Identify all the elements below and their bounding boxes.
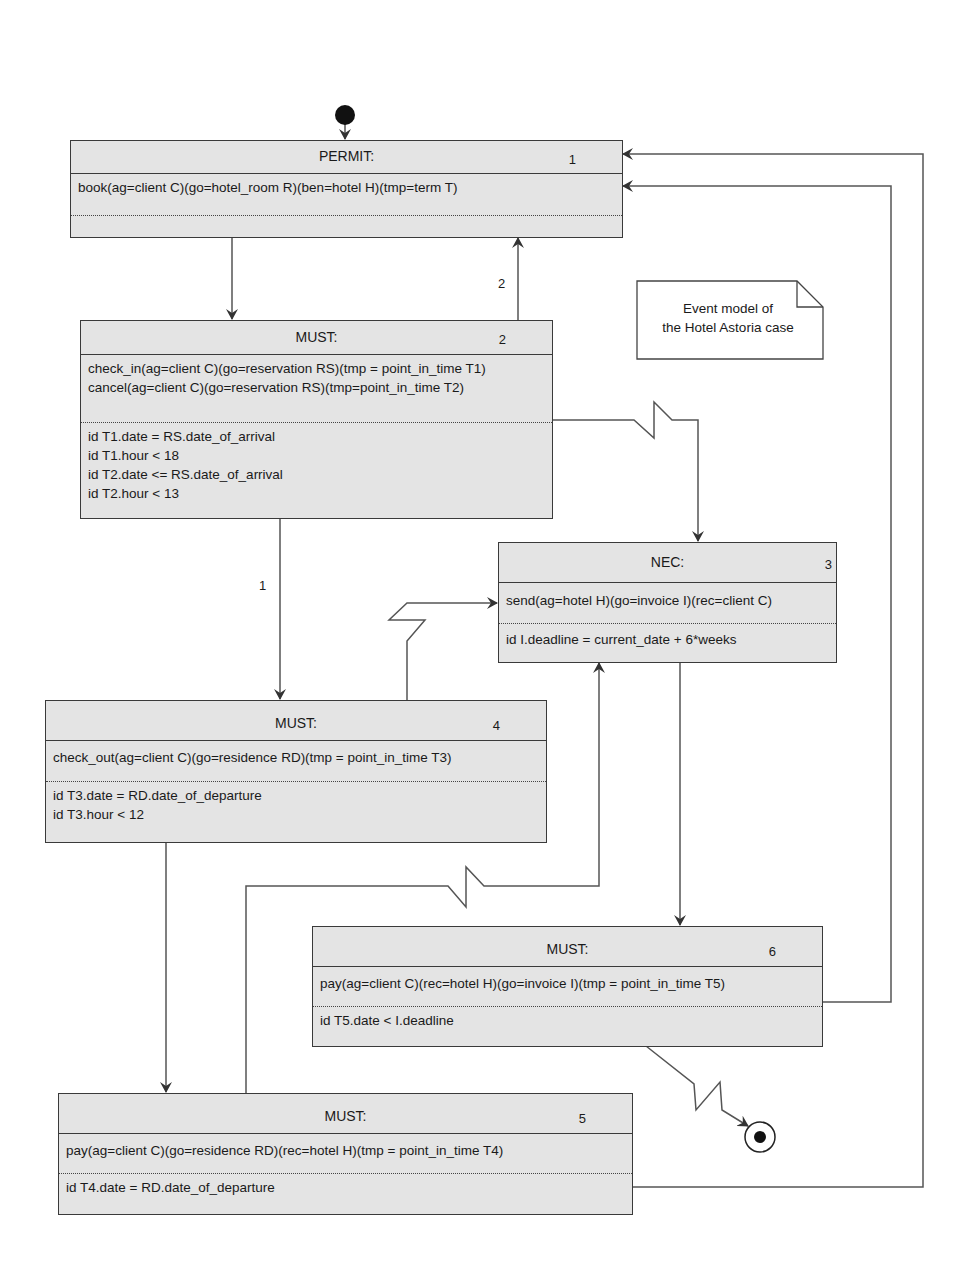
condition-line: id T5.date < I.deadline xyxy=(320,1011,815,1030)
node-header: MUST: 6 xyxy=(313,927,822,967)
node-operations: book(ag=client C)(go=hotel_room R)(ben=h… xyxy=(71,174,622,216)
node-type: MUST: xyxy=(547,941,589,957)
operation-line: cancel(ag=client C)(go=reservation RS)(t… xyxy=(88,378,545,397)
node-type: NEC: xyxy=(651,554,684,570)
edge-6-to-end xyxy=(646,1046,748,1126)
node-number: 6 xyxy=(769,930,776,974)
node-number: 2 xyxy=(499,324,506,356)
node-number: 1 xyxy=(569,144,576,175)
node-operations: pay(ag=client C)(go=residence RD)(rec=ho… xyxy=(59,1134,632,1174)
node-number: 5 xyxy=(579,1097,586,1141)
node-conditions xyxy=(71,216,622,224)
operation-line: check_in(ag=client C)(go=reservation RS)… xyxy=(88,359,545,378)
diagram-note: Event model of the Hotel Astoria case xyxy=(637,281,823,359)
node-conditions: id I.deadline = current_date + 6*weeks xyxy=(499,624,836,653)
node-header: PERMIT: 1 xyxy=(71,141,622,174)
node-4-must[interactable]: MUST: 4 check_out(ag=client C)(go=reside… xyxy=(45,700,547,843)
node-header: NEC: 3 xyxy=(499,543,836,583)
node-header: MUST: 4 xyxy=(46,701,546,741)
node-type: MUST: xyxy=(296,329,338,345)
node-operations: pay(ag=client C)(rec=hotel H)(go=invoice… xyxy=(313,967,822,1007)
operation-line: pay(ag=client C)(go=residence RD)(rec=ho… xyxy=(66,1141,625,1160)
node-operations: check_in(ag=client C)(go=reservation RS)… xyxy=(81,355,552,423)
node-header: MUST: 5 xyxy=(59,1094,632,1134)
condition-line: id T3.hour < 12 xyxy=(53,805,539,824)
condition-line: id T2.date <= RS.date_of_arrival xyxy=(88,465,545,484)
node-5-must[interactable]: MUST: 5 pay(ag=client C)(go=residence RD… xyxy=(58,1093,633,1215)
condition-line: id I.deadline = current_date + 6*weeks xyxy=(506,630,829,649)
operation-line: pay(ag=client C)(rec=hotel H)(go=invoice… xyxy=(320,974,815,993)
condition-line: id T1.date = RS.date_of_arrival xyxy=(88,427,545,446)
condition-line: id T2.hour < 13 xyxy=(88,484,545,503)
operation-line: check_out(ag=client C)(go=residence RD)(… xyxy=(53,748,539,767)
operation-line: send(ag=hotel H)(go=invoice I)(rec=clien… xyxy=(506,591,829,610)
node-type: MUST: xyxy=(325,1108,367,1124)
node-conditions: id T4.date = RD.date_of_departure xyxy=(59,1174,632,1201)
condition-line: id T1.hour < 18 xyxy=(88,446,545,465)
condition-line: id T3.date = RD.date_of_departure xyxy=(53,786,539,805)
start-node-icon xyxy=(335,105,355,125)
node-type: PERMIT: xyxy=(319,148,374,164)
node-conditions: id T3.date = RD.date_of_departure id T3.… xyxy=(46,782,546,828)
note-line-1: Event model of xyxy=(637,299,819,318)
note-line-2: the Hotel Astoria case xyxy=(637,318,819,337)
node-1-permit[interactable]: PERMIT: 1 book(ag=client C)(go=hotel_roo… xyxy=(70,140,623,238)
node-operations: send(ag=hotel H)(go=invoice I)(rec=clien… xyxy=(499,583,836,624)
edge-label-2-to-4: 1 xyxy=(259,578,266,593)
node-operations: check_out(ag=client C)(go=residence RD)(… xyxy=(46,741,546,782)
operation-line: book(ag=client C)(go=hotel_room R)(ben=h… xyxy=(78,178,615,197)
node-number: 3 xyxy=(825,546,832,584)
node-3-nec[interactable]: NEC: 3 send(ag=hotel H)(go=invoice I)(re… xyxy=(498,542,837,663)
node-type: MUST: xyxy=(275,715,317,731)
node-conditions: id T1.date = RS.date_of_arrival id T1.ho… xyxy=(81,423,552,507)
node-6-must[interactable]: MUST: 6 pay(ag=client C)(rec=hotel H)(go… xyxy=(312,926,823,1047)
node-conditions: id T5.date < I.deadline xyxy=(313,1007,822,1034)
node-header: MUST: 2 xyxy=(81,321,552,355)
edge-4-to-3 xyxy=(389,603,497,700)
node-number: 4 xyxy=(493,704,500,748)
edge-2-to-3 xyxy=(552,402,698,541)
condition-line: id T4.date = RD.date_of_departure xyxy=(66,1178,625,1197)
edge-label-2-to-1: 2 xyxy=(498,276,505,291)
node-2-must[interactable]: MUST: 2 check_in(ag=client C)(go=reserva… xyxy=(80,320,553,519)
